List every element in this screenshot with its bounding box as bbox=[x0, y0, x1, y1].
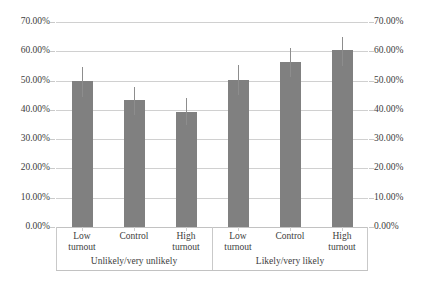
y-tick-right bbox=[369, 227, 374, 228]
category-label-line1: Control bbox=[275, 231, 304, 241]
gridline-7000 bbox=[56, 22, 368, 23]
y-axis-right-label: 40.00% bbox=[374, 105, 420, 115]
gridline-6000 bbox=[56, 51, 368, 52]
y-axis-left-label: 20.00% bbox=[4, 163, 50, 173]
bar bbox=[124, 100, 145, 227]
y-tick-left bbox=[50, 198, 55, 199]
gridline-5000 bbox=[56, 81, 368, 82]
y-tick-right bbox=[369, 110, 374, 111]
y-tick-right bbox=[369, 81, 374, 82]
y-axis-right-label: 60.00% bbox=[374, 46, 420, 56]
bar bbox=[280, 62, 301, 227]
y-tick-right bbox=[369, 139, 374, 140]
gridline-2000 bbox=[56, 168, 368, 169]
label-block-bottom-rule bbox=[56, 270, 368, 271]
plot-area bbox=[56, 22, 368, 227]
y-tick-right bbox=[369, 51, 374, 52]
category-label-line1: Control bbox=[119, 231, 148, 241]
y-axis-right-label: 50.00% bbox=[374, 76, 420, 86]
y-axis-left-label: 70.00% bbox=[4, 17, 50, 27]
y-axis-right-label: 30.00% bbox=[374, 134, 420, 144]
axis-edge bbox=[56, 227, 57, 271]
gridline-1000 bbox=[56, 198, 368, 199]
y-tick-right bbox=[369, 22, 374, 23]
error-bar bbox=[342, 37, 343, 66]
error-bar bbox=[238, 65, 239, 95]
y-axis-left-label: 0.00% bbox=[4, 222, 50, 232]
gridline-3000 bbox=[56, 139, 368, 140]
bar bbox=[332, 50, 353, 227]
axis-edge bbox=[367, 227, 368, 271]
gridline-4000 bbox=[56, 110, 368, 111]
category-label-line1: Low bbox=[229, 231, 246, 241]
group-separator bbox=[212, 227, 213, 271]
y-axis-left-label: 40.00% bbox=[4, 105, 50, 115]
category-label-line1: Low bbox=[73, 231, 90, 241]
bar bbox=[176, 112, 197, 227]
y-axis-left-label: 50.00% bbox=[4, 76, 50, 86]
y-axis-left-label: 30.00% bbox=[4, 134, 50, 144]
category-label-line1: High bbox=[333, 231, 352, 241]
bar bbox=[228, 80, 249, 227]
y-axis-right-label: 70.00% bbox=[374, 17, 420, 27]
y-axis-right-label: 0.00% bbox=[374, 222, 420, 232]
y-tick-left bbox=[50, 81, 55, 82]
error-bar bbox=[134, 87, 135, 115]
y-axis-left-label: 60.00% bbox=[4, 46, 50, 56]
error-bar bbox=[186, 98, 187, 125]
bar-chart: 0.00%10.00%20.00%30.00%40.00%50.00%60.00… bbox=[0, 0, 424, 291]
y-tick-left bbox=[50, 51, 55, 52]
y-tick-right bbox=[369, 198, 374, 199]
y-tick-left bbox=[50, 227, 55, 228]
y-axis-right-label: 10.00% bbox=[374, 193, 420, 203]
category-label-line1: High bbox=[177, 231, 196, 241]
error-bar bbox=[82, 67, 83, 97]
y-tick-left bbox=[50, 168, 55, 169]
group-label: Likely/very likely bbox=[212, 256, 368, 267]
bar bbox=[72, 81, 93, 227]
y-tick-left bbox=[50, 22, 55, 23]
y-tick-right bbox=[369, 168, 374, 169]
category-axis: LowturnoutControlHighturnoutUnlikely/ver… bbox=[56, 227, 368, 277]
y-axis-left-label: 10.00% bbox=[4, 193, 50, 203]
group-label: Unlikely/very unlikely bbox=[56, 256, 212, 267]
y-tick-left bbox=[50, 110, 55, 111]
y-tick-left bbox=[50, 139, 55, 140]
y-axis-right-label: 20.00% bbox=[374, 163, 420, 173]
error-bar bbox=[290, 48, 291, 77]
